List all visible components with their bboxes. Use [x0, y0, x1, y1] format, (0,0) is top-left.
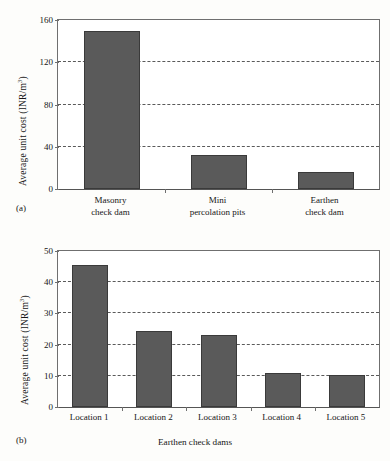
y-axis-title-exponent: 3	[18, 299, 25, 302]
x-category-label-line: Location 1	[57, 412, 121, 424]
y-axis-title-text: Average unit cost (INR/m	[20, 302, 30, 405]
x-tick-mark	[251, 407, 252, 411]
bar	[329, 375, 365, 407]
x-category-label-line: check dam	[271, 207, 378, 219]
x-category-label-line: Location 4	[250, 412, 314, 424]
x-category-label: Location 5	[314, 412, 378, 424]
x-category-label-line: Earthen	[271, 195, 378, 207]
x-axis-title-b: Earthen check dams	[0, 437, 390, 447]
bar	[298, 172, 354, 189]
x-tick-mark	[272, 189, 273, 193]
y-tick-label: 40	[44, 142, 58, 152]
y-tick-label: 40	[44, 277, 58, 287]
bar	[72, 265, 108, 407]
x-category-label: Masonrycheck dam	[57, 195, 164, 218]
bar	[191, 155, 247, 189]
chart-panel-b: Average unit cost (INR/m3) 01020304050 E…	[0, 230, 390, 461]
x-tick-mark	[186, 407, 187, 411]
x-category-label-line: Masonry	[57, 195, 164, 207]
y-tick-label: 50	[44, 246, 58, 256]
chart-panel-a: Average unit cost (INR/m3) 04080120160 (…	[0, 0, 390, 230]
x-category-label-line: Location 5	[314, 412, 378, 424]
y-axis-title-a: Average unit cost (INR/m3)	[16, 76, 28, 186]
y-tick-label: 0	[49, 402, 59, 412]
x-tick-mark	[165, 189, 166, 193]
x-tick-mark	[122, 407, 123, 411]
plot-area-a: 04080120160	[57, 19, 380, 190]
bar	[201, 335, 237, 407]
y-tick-label: 120	[40, 57, 59, 67]
y-tick-label: 10	[44, 371, 58, 381]
x-category-label: Location 3	[185, 412, 249, 424]
x-category-label: Location 1	[57, 412, 121, 424]
bar	[265, 373, 301, 407]
bar	[136, 331, 172, 407]
y-axis-title-exponent: 3	[16, 80, 23, 83]
y-axis-title-suffix: )	[18, 76, 28, 79]
y-axis-title-b: Average unit cost (INR/m3)	[18, 295, 30, 405]
x-category-label-line: Mini	[164, 195, 271, 207]
y-axis-title-text: Average unit cost (INR/m	[18, 83, 28, 186]
y-tick-label: 160	[40, 15, 59, 25]
y-tick-label: 30	[44, 308, 58, 318]
x-category-label: Earthencheck dam	[271, 195, 378, 218]
bar	[84, 31, 140, 189]
panel-tag-b: (b)	[16, 435, 27, 445]
y-axis-title-suffix: )	[20, 295, 30, 298]
x-category-label: Minipercolation pits	[164, 195, 271, 218]
x-category-label-line: percolation pits	[164, 207, 271, 219]
x-category-label: Location 4	[250, 412, 314, 424]
y-tick-label: 80	[44, 100, 58, 110]
x-tick-mark	[315, 407, 316, 411]
x-category-label: Location 2	[121, 412, 185, 424]
y-tick-label: 20	[44, 340, 58, 350]
y-tick-label: 0	[49, 184, 59, 194]
x-category-label-line: Location 2	[121, 412, 185, 424]
x-category-label-line: Location 3	[185, 412, 249, 424]
x-category-label-line: check dam	[57, 207, 164, 219]
plot-area-b: 01020304050	[57, 250, 380, 408]
figure-container: Average unit cost (INR/m3) 04080120160 (…	[0, 0, 390, 461]
panel-tag-a: (a)	[16, 203, 26, 213]
